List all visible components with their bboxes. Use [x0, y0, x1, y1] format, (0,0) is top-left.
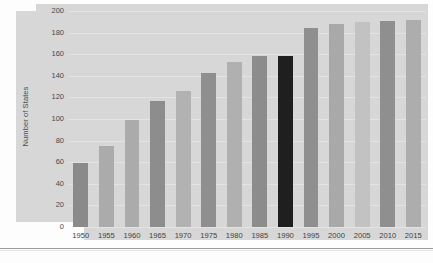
bar-slot	[349, 11, 375, 227]
bar-slot	[94, 11, 120, 227]
bar-slot	[298, 11, 324, 227]
y-axis-tick-label: 20	[38, 202, 64, 210]
x-axis-tick-label: 2000	[324, 230, 350, 242]
x-axis-tick-label: 1970	[170, 230, 196, 242]
bar-1955[interactable]	[99, 146, 114, 227]
x-axis-tick-label: 1995	[298, 230, 324, 242]
bar-slot	[196, 11, 222, 227]
x-axis-tick-label: 1960	[119, 230, 145, 242]
x-axis-tick-label: 2015	[401, 230, 427, 242]
bar-1985[interactable]	[252, 56, 267, 227]
y-axis-tick-label: 80	[38, 137, 64, 145]
bar-series	[68, 11, 426, 227]
y-axis-tick-label: 120	[38, 94, 64, 102]
bar-slot	[401, 11, 427, 227]
page-divider-rule-shadow	[0, 250, 433, 251]
page-background: Number of States 20018016014012010080604…	[0, 0, 433, 263]
x-axis-tick-label: 1975	[196, 230, 222, 242]
bar-chart-figure: Number of States 20018016014012010080604…	[16, 4, 428, 240]
bar-slot	[68, 11, 94, 227]
x-axis-tick-label: 1950	[68, 230, 94, 242]
bar-1980[interactable]	[227, 62, 242, 227]
bar-slot	[273, 11, 299, 227]
plot-area	[68, 11, 426, 227]
bar-1965[interactable]	[150, 101, 165, 227]
bar-slot	[221, 11, 247, 227]
y-axis-tick-labels: 200180160140120100806040200	[38, 4, 64, 228]
y-axis-title: Number of States	[14, 4, 38, 228]
bar-1975[interactable]	[201, 73, 216, 227]
bar-1960[interactable]	[125, 120, 140, 227]
y-axis-tick-label: 140	[38, 72, 64, 80]
x-axis-tick-label: 2005	[349, 230, 375, 242]
bar-2000[interactable]	[329, 24, 344, 227]
bar-slot	[170, 11, 196, 227]
bar-slot	[247, 11, 273, 227]
y-axis-tick-label: 180	[38, 29, 64, 37]
bar-1995[interactable]	[304, 28, 319, 227]
bar-2005[interactable]	[355, 22, 370, 227]
bar-1970[interactable]	[176, 91, 191, 227]
x-axis-tick-label: 1965	[145, 230, 171, 242]
y-axis-tick-label: 60	[38, 158, 64, 166]
y-axis-tick-label: 160	[38, 50, 64, 58]
x-axis-tick-label: 1985	[247, 230, 273, 242]
y-axis-tick-label: 100	[38, 115, 64, 123]
bar-slot	[375, 11, 401, 227]
bar-2015[interactable]	[406, 20, 421, 227]
y-axis-tick-label: 40	[38, 180, 64, 188]
bar-slot	[119, 11, 145, 227]
bar-slot	[145, 11, 171, 227]
bar-slot	[324, 11, 350, 227]
gridline	[68, 227, 426, 228]
x-axis-tick-label: 1980	[221, 230, 247, 242]
y-axis-tick-label: 0	[38, 223, 64, 231]
x-axis-tick-labels: 1950195519601965197019751980198519901995…	[68, 230, 426, 242]
bar-2010[interactable]	[380, 21, 395, 227]
x-axis-tick-label: 1990	[273, 230, 299, 242]
bar-1990[interactable]	[278, 56, 293, 227]
x-axis-tick-label: 2010	[375, 230, 401, 242]
y-axis-tick-label: 200	[38, 7, 64, 15]
bar-1950[interactable]	[73, 163, 88, 227]
page-divider-rule	[0, 248, 433, 249]
x-axis-tick-label: 1955	[94, 230, 120, 242]
y-axis-title-text: Number of States	[22, 86, 31, 146]
